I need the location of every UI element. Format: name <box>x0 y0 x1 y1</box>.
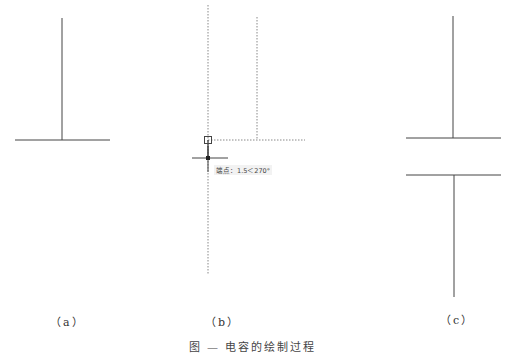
panel-a-label: （a） <box>50 313 85 329</box>
panel-a-drawing <box>15 18 110 140</box>
panel-c-capacitor-symbol <box>406 16 501 297</box>
panel-c-label: （c） <box>440 311 474 327</box>
snap-tooltip: 端点：1.5＜270° <box>214 165 272 175</box>
figure-caption: 图 — 电容的绘制过程 <box>0 338 505 354</box>
panel-b-label: （b） <box>205 313 240 329</box>
panel-b-drawing <box>192 5 305 275</box>
